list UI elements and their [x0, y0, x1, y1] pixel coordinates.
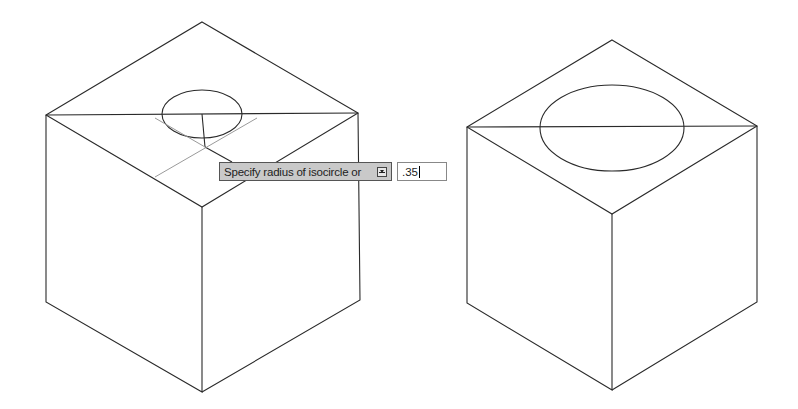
radius-input[interactable]: .35 [397, 162, 447, 181]
down-arrow-options-icon[interactable] [377, 167, 387, 177]
text-cursor [419, 166, 420, 178]
radius-rubberband-line [202, 114, 205, 147]
dynamic-input-prompt: Specify radius of isocircle or [219, 162, 392, 181]
left-cube-left-face [46, 115, 202, 392]
right-cube-isocircle [540, 85, 684, 171]
right-cube [467, 40, 757, 390]
left-cube [46, 22, 360, 392]
right-cube-left-face [467, 127, 612, 390]
right-cube-diagonal [467, 126, 757, 127]
tracking-line-a [155, 118, 205, 147]
left-cube-right-face [202, 113, 360, 392]
radius-input-value: .35 [402, 166, 418, 178]
radius-extension-line [205, 147, 232, 162]
prompt-label: Specify radius of isocircle or [224, 166, 373, 178]
drawing-canvas[interactable] [0, 0, 798, 409]
right-cube-right-face [612, 126, 757, 390]
